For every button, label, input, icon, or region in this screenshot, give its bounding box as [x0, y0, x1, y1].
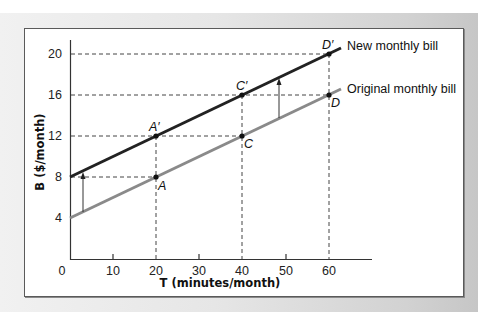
- y-tick-label-8: 8: [55, 170, 62, 184]
- legend-original-bill: Original monthly bill: [347, 82, 456, 96]
- original-bill-line: [70, 89, 341, 218]
- point-C-prime: [239, 92, 244, 97]
- origin-label: 0: [59, 264, 66, 278]
- axes: [70, 40, 372, 260]
- point-A-prime: [153, 133, 158, 138]
- x-tick-label-60: 60: [322, 264, 336, 278]
- y-tick-label-4: 4: [55, 211, 62, 225]
- y-tick-label-12: 12: [48, 129, 62, 143]
- y-axis-title: B ($/month): [33, 113, 47, 190]
- y-tick-label-20: 20: [48, 47, 62, 61]
- label-D: D: [331, 96, 340, 110]
- label-C: C: [244, 137, 254, 151]
- label-A: A: [157, 179, 166, 193]
- x-tick-label-50: 50: [279, 264, 293, 278]
- label-A-prime: A′: [148, 120, 160, 134]
- x-tick-label-10: 10: [106, 264, 120, 278]
- bill-chart: A C D A′ C′ D′ New monthly bill Original…: [0, 0, 488, 324]
- label-D-prime: D′: [322, 38, 334, 52]
- new-bill-line: [70, 48, 341, 177]
- y-tick-label-16: 16: [48, 88, 62, 102]
- legend-new-bill: New monthly bill: [347, 39, 438, 53]
- point-D-prime: [326, 51, 331, 56]
- x-axis-title: T (minutes/month): [160, 276, 281, 290]
- label-C-prime: C′: [236, 79, 248, 93]
